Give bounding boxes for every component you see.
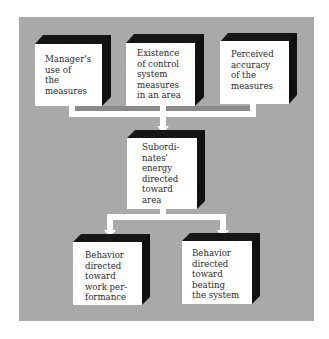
box-text-line: the system xyxy=(192,290,252,301)
box-text-line: area xyxy=(142,195,197,206)
bottom-connector-right-down xyxy=(220,214,226,231)
box-text-line: nates' xyxy=(142,153,197,164)
box-text-line: Behavior xyxy=(85,250,142,261)
box-text-line: Behavior xyxy=(192,248,252,259)
box-text-line: measures xyxy=(137,80,195,91)
box-text-line: the xyxy=(45,75,102,86)
box-text-line: Subordi- xyxy=(142,142,197,153)
box-text-line: directed xyxy=(142,174,197,185)
bottom-connector-bar xyxy=(107,214,226,220)
box-text-line: measures xyxy=(231,81,289,92)
box-text-line: of control xyxy=(137,59,195,70)
box-text-line: measures xyxy=(45,86,102,97)
box-text-line: of the xyxy=(231,70,289,81)
box-text-line: formance xyxy=(85,292,142,303)
box-text-line: directed xyxy=(192,259,252,270)
box-text-line: Existence xyxy=(137,48,195,59)
box-text-line: system xyxy=(137,69,195,80)
box-text-line: use of xyxy=(45,65,102,76)
bottom-connector-left-down xyxy=(107,214,113,231)
box-text-line: Perceived xyxy=(231,49,289,60)
box-text-line: toward xyxy=(85,271,142,282)
box-text-line: work per- xyxy=(85,282,142,293)
box-text-line: beating xyxy=(192,280,252,291)
box-text-line: energy xyxy=(142,163,197,174)
box-text-line: toward xyxy=(192,269,252,280)
box-text-line: accuracy xyxy=(231,60,289,71)
box-text-line: toward xyxy=(142,184,197,195)
box-text-line: Manager's xyxy=(45,54,102,65)
box-text-line: directed xyxy=(85,261,142,272)
box-text-line: in an area xyxy=(137,90,195,101)
